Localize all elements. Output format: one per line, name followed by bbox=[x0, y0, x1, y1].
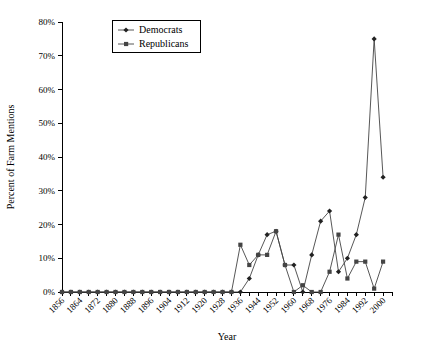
data-point bbox=[167, 290, 171, 294]
data-point bbox=[363, 195, 368, 200]
data-point bbox=[87, 290, 91, 294]
data-point bbox=[336, 269, 341, 274]
chart-canvas: 0%10%20%30%40%50%60%70%80%18561864187218… bbox=[0, 0, 430, 347]
chart-legend: DemocratsRepublicans bbox=[112, 20, 200, 52]
data-point bbox=[212, 290, 216, 294]
legend-label: Republicans bbox=[139, 38, 189, 49]
data-point bbox=[113, 290, 117, 294]
y-tick-label: 40% bbox=[39, 152, 56, 162]
x-tick-label: 1968 bbox=[296, 295, 316, 315]
x-tick-label: 1944 bbox=[243, 295, 263, 315]
data-point bbox=[283, 263, 287, 267]
x-tick-label: 1960 bbox=[279, 295, 299, 315]
data-point bbox=[310, 290, 314, 294]
y-tick-label: 30% bbox=[39, 186, 56, 196]
x-tick-label: 1888 bbox=[118, 295, 138, 315]
data-point bbox=[265, 253, 269, 257]
data-point bbox=[292, 290, 296, 294]
data-point bbox=[149, 290, 153, 294]
data-point bbox=[247, 263, 251, 267]
data-point bbox=[238, 289, 243, 294]
data-point bbox=[78, 290, 82, 294]
legend-label: Democrats bbox=[139, 24, 182, 35]
data-point bbox=[372, 287, 376, 291]
series-republicans bbox=[60, 229, 385, 294]
data-point bbox=[194, 290, 198, 294]
data-point bbox=[291, 262, 296, 267]
x-tick-label: 1984 bbox=[332, 295, 352, 315]
x-tick-label: 1928 bbox=[207, 295, 227, 315]
y-axis-title: Percent of Farm Mentions bbox=[5, 105, 16, 210]
data-point bbox=[203, 290, 207, 294]
y-tick-label: 60% bbox=[39, 85, 56, 95]
x-axis-title: Year bbox=[218, 331, 237, 342]
data-point bbox=[104, 290, 108, 294]
x-tick-label: 1864 bbox=[64, 295, 84, 315]
x-tick-label: 1896 bbox=[136, 295, 156, 315]
x-tick-label: 1856 bbox=[47, 295, 67, 315]
data-point bbox=[301, 283, 305, 287]
data-point bbox=[176, 290, 180, 294]
y-tick-label: 20% bbox=[39, 220, 56, 230]
data-point bbox=[238, 243, 242, 247]
data-point bbox=[372, 36, 377, 41]
data-point bbox=[319, 290, 323, 294]
data-point bbox=[345, 276, 349, 280]
data-point bbox=[131, 290, 135, 294]
series-line bbox=[62, 39, 383, 292]
series-line bbox=[62, 231, 383, 292]
data-point bbox=[69, 290, 73, 294]
data-point bbox=[309, 252, 314, 257]
x-tick-label: 1872 bbox=[82, 295, 102, 315]
data-point bbox=[354, 232, 359, 237]
data-point bbox=[380, 175, 385, 180]
data-point bbox=[300, 289, 305, 294]
y-tick-label: 0% bbox=[43, 287, 56, 297]
data-point bbox=[158, 290, 162, 294]
data-point bbox=[327, 270, 331, 274]
x-tick-label: 1920 bbox=[189, 295, 209, 315]
y-tick-label: 50% bbox=[39, 118, 56, 128]
data-point bbox=[220, 290, 224, 294]
x-tick-label: 2000 bbox=[368, 295, 388, 315]
data-point bbox=[363, 260, 367, 264]
x-tick-label: 1992 bbox=[350, 295, 370, 315]
legend-marker bbox=[124, 42, 128, 46]
data-point bbox=[96, 290, 100, 294]
data-point bbox=[345, 256, 350, 261]
data-point bbox=[381, 260, 385, 264]
data-point bbox=[60, 290, 64, 294]
y-tick-label: 10% bbox=[39, 253, 56, 263]
x-tick-label: 1952 bbox=[261, 295, 281, 315]
data-point bbox=[247, 276, 252, 281]
data-point bbox=[274, 229, 278, 233]
x-tick-label: 1912 bbox=[171, 295, 191, 315]
farm-mentions-chart: 0%10%20%30%40%50%60%70%80%18561864187218… bbox=[0, 0, 430, 347]
data-point bbox=[229, 290, 233, 294]
data-point bbox=[185, 290, 189, 294]
data-point bbox=[336, 233, 340, 237]
data-point bbox=[122, 290, 126, 294]
y-tick-label: 70% bbox=[39, 51, 56, 61]
x-tick-label: 1976 bbox=[314, 295, 334, 315]
x-tick-label: 1904 bbox=[154, 295, 174, 315]
series-democrats bbox=[59, 36, 385, 294]
data-point bbox=[256, 253, 260, 257]
data-point bbox=[140, 290, 144, 294]
y-tick-label: 80% bbox=[39, 17, 56, 27]
data-point bbox=[354, 260, 358, 264]
x-tick-label: 1936 bbox=[225, 295, 245, 315]
x-tick-label: 1880 bbox=[100, 295, 120, 315]
data-point bbox=[265, 232, 270, 237]
